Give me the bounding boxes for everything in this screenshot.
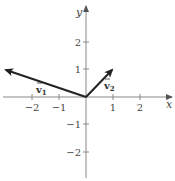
y-tick-label: −2: [66, 147, 81, 158]
y-tick-label: 2: [75, 37, 81, 48]
x-tick-label: 1: [110, 102, 116, 113]
x-tick-label: −2: [25, 102, 40, 113]
y-axis-label: y: [75, 6, 83, 19]
svg-text:v2: v2: [103, 80, 115, 93]
y-tick-label: 1: [75, 64, 81, 75]
x-tick-label: −1: [52, 102, 67, 113]
svg-text:v1: v1: [35, 84, 47, 97]
coordinate-plane: −2 −1 1 2 2 1 −1 −2 x y v1 v2: [0, 0, 175, 181]
y-tick-label: −1: [66, 119, 81, 130]
x-axis-label: x: [166, 98, 173, 111]
vector-v2-label: v2: [103, 79, 115, 93]
x-tick-label: 2: [137, 102, 143, 113]
vector-v1-label: v1: [35, 83, 47, 97]
